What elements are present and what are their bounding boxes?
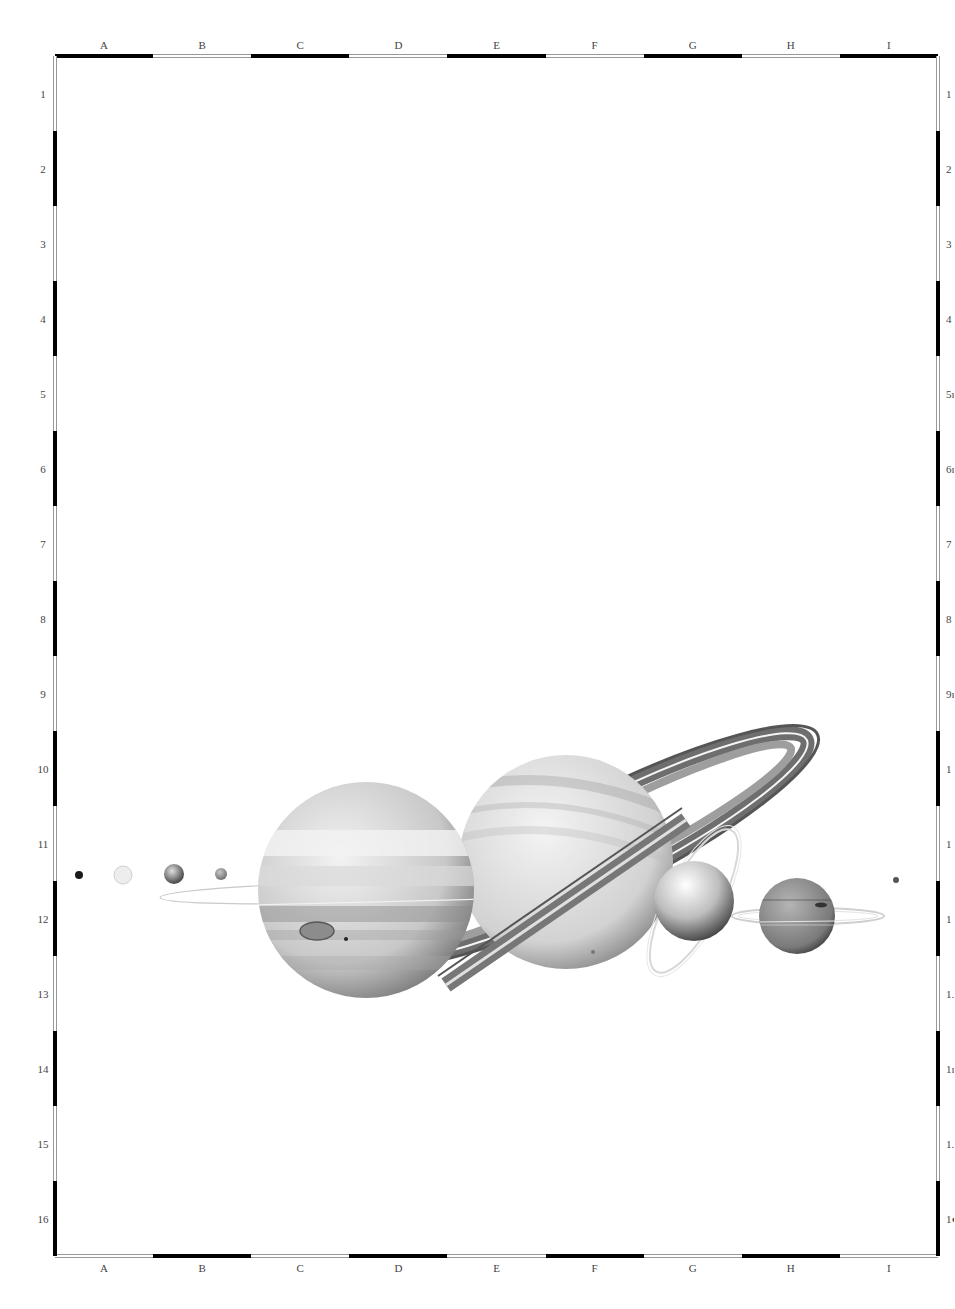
solar-system-illustration [0,0,955,1309]
venus [114,866,132,884]
mars [215,868,227,880]
uranus [654,861,734,941]
neptune [755,878,840,954]
mercury [75,871,83,879]
earth [164,864,184,884]
pluto [893,877,899,883]
